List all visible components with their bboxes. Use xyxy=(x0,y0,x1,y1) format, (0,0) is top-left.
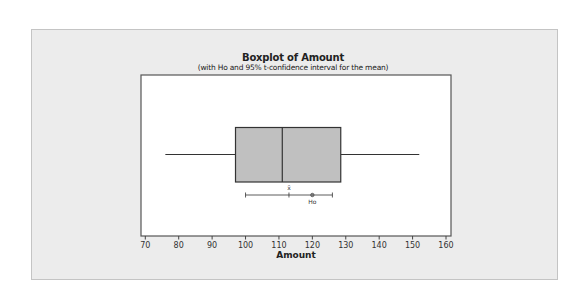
x-tick-label: 100 xyxy=(238,241,253,250)
x-tick-label: 160 xyxy=(438,241,453,250)
x-tick-label: 110 xyxy=(271,241,286,250)
x-axis-title: Amount xyxy=(276,250,316,260)
x-tick-label: 120 xyxy=(305,241,320,250)
x-tick-label: 150 xyxy=(405,241,420,250)
x-tick-label: 80 xyxy=(174,241,184,250)
mean-label: x̄ xyxy=(287,184,291,191)
x-tick-label: 70 xyxy=(140,241,150,250)
x-tick-label: 130 xyxy=(338,241,353,250)
ho-marker xyxy=(311,193,315,197)
x-axis: 708090100110120130140150160 xyxy=(140,236,453,250)
iqr-box xyxy=(236,128,341,183)
ho-label: Ho xyxy=(308,198,317,205)
x-tick-label: 90 xyxy=(207,241,217,250)
boxplot-svg: 708090100110120130140150160 Amount x̄Ho xyxy=(0,0,586,297)
x-tick-label: 140 xyxy=(372,241,387,250)
